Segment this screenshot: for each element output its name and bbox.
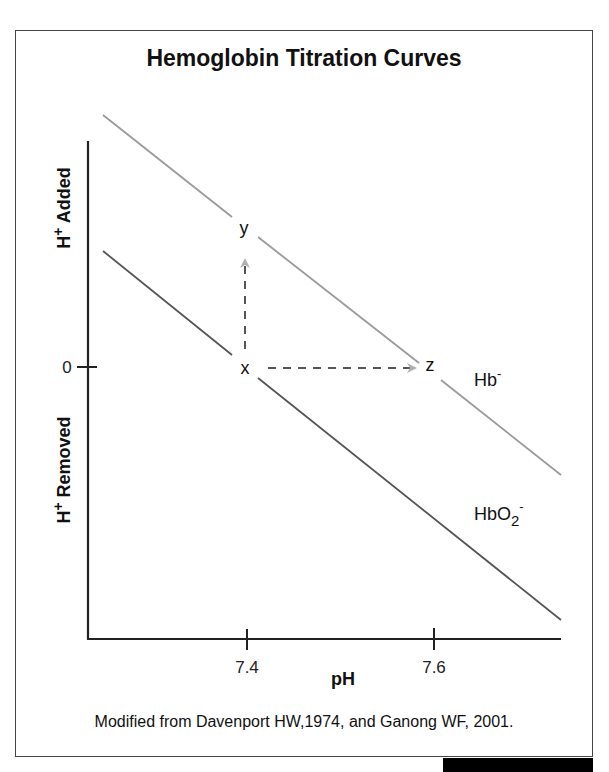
point-x-label: x — [241, 358, 250, 378]
y-label-added: H+ Added — [50, 167, 74, 249]
x-axis-label: pH — [331, 669, 355, 689]
x-tick-label-7-6: 7.6 — [422, 658, 446, 677]
y-label-removed: H+ Removed — [50, 416, 74, 523]
point-z-label: z — [426, 355, 435, 375]
hbo2-curve — [103, 251, 561, 620]
y-zero-label: 0 — [62, 358, 71, 377]
point-y-label: y — [240, 218, 249, 238]
hbo2-curve-label: HbO2- — [474, 499, 524, 529]
x-tick-label-7-4: 7.4 — [235, 658, 259, 677]
titration-chart: Hemoglobin Titration Curves H+ Added H+ … — [0, 0, 609, 772]
source-caption: Modified from Davenport HW,1974, and Gan… — [95, 713, 514, 730]
hb-curve — [103, 115, 561, 475]
hb-curve-label: Hb- — [474, 366, 501, 390]
chart-title: Hemoglobin Titration Curves — [146, 45, 461, 71]
